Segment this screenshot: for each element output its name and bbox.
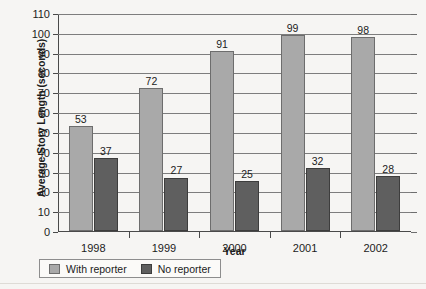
gridline: [58, 14, 411, 15]
y-tick-mark-right: [411, 192, 417, 193]
y-tick-label: 30: [38, 167, 50, 178]
y-tick-mark: [53, 14, 58, 15]
y-tick-mark-right: [411, 153, 417, 154]
y-tick-mark: [53, 192, 58, 193]
bar: [139, 88, 163, 231]
y-tick-mark: [53, 73, 58, 74]
bar: [306, 168, 330, 231]
legend-swatch: [141, 264, 152, 274]
x-tick-mark: [129, 232, 130, 238]
y-tick-mark-right: [411, 34, 417, 35]
bar-value-label: 32: [312, 156, 324, 167]
y-tick-label: 40: [38, 147, 50, 158]
bar: [210, 51, 234, 231]
y-axis-line: [58, 14, 59, 232]
y-tick-mark: [53, 153, 58, 154]
bar-value-label: 72: [146, 76, 158, 87]
legend-swatch: [49, 264, 60, 274]
bar: [351, 37, 375, 231]
x-tick-mark: [340, 232, 341, 238]
legend-label: With reporter: [66, 263, 127, 275]
y-tick-mark-right: [411, 232, 417, 233]
bar-value-label: 25: [241, 169, 253, 180]
y-tick-mark: [53, 93, 58, 94]
bar-value-label: 98: [357, 25, 369, 36]
bar-value-label: 27: [171, 165, 183, 176]
x-axis-line: [58, 231, 411, 232]
y-tick-mark-right: [411, 133, 417, 134]
chart-legend: With reporterNo reporter: [39, 259, 221, 278]
bar: [235, 181, 259, 231]
y-tick-mark-right: [411, 93, 417, 94]
bar-value-label: 28: [382, 164, 394, 175]
bar-chart: Average Story Length (seconds) 010203040…: [0, 0, 426, 289]
bar-value-label: 37: [100, 146, 112, 157]
y-tick-mark: [53, 34, 58, 35]
plot-area: 0102030405060708090100110 53377227912599…: [58, 14, 411, 232]
y-tick-mark: [53, 212, 58, 213]
y-tick-label: 60: [38, 108, 50, 119]
y-tick-mark-right: [411, 14, 417, 15]
y-tick-label: 50: [38, 127, 50, 138]
y-tick-mark: [53, 54, 58, 55]
page-edge-line: [0, 283, 426, 284]
y-tick-mark: [53, 133, 58, 134]
bar: [164, 178, 188, 232]
x-tick-mark: [270, 232, 271, 238]
y-tick-label: 10: [38, 207, 50, 218]
legend-item: With reporter: [49, 263, 127, 275]
legend-label: No reporter: [158, 263, 211, 275]
y-tick-label: 110: [32, 9, 50, 20]
legend-item: No reporter: [141, 263, 211, 275]
y-tick-label: 80: [38, 68, 50, 79]
y-tick-mark: [53, 232, 58, 233]
bar: [94, 158, 118, 231]
y-tick-mark-right: [411, 113, 417, 114]
y-tick-label: 100: [32, 28, 50, 39]
y-tick-label: 70: [38, 88, 50, 99]
y-tick-label: 0: [44, 227, 50, 238]
bar: [69, 126, 93, 231]
bar: [376, 176, 400, 231]
bar-value-label: 91: [216, 39, 228, 50]
y-tick-mark-right: [411, 212, 417, 213]
y-tick-mark: [53, 113, 58, 114]
y-tick-mark-right: [411, 173, 417, 174]
y-tick-mark-right: [411, 73, 417, 74]
x-axis-title: Year: [58, 245, 411, 257]
x-tick-mark: [199, 232, 200, 238]
y-tick-mark: [53, 173, 58, 174]
bar: [281, 35, 305, 231]
y-tick-label: 20: [38, 187, 50, 198]
y-tick-mark-right: [411, 54, 417, 55]
bar-value-label: 99: [287, 23, 299, 34]
bar-value-label: 53: [75, 114, 87, 125]
y-tick-label: 90: [38, 48, 50, 59]
